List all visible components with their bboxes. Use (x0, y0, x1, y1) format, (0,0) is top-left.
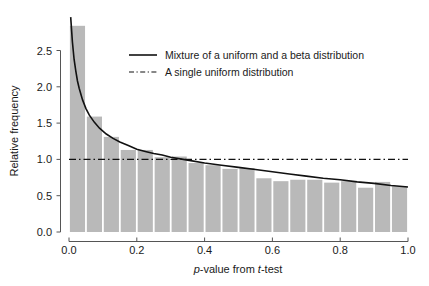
chart-svg: 0.00.51.01.52.02.5 0.00.20.40.60.81.0 Re… (0, 0, 429, 286)
histogram-bar (121, 150, 136, 232)
y-axis-tick-label: 1.0 (37, 153, 52, 165)
histogram-bar (206, 165, 221, 232)
histogram-bar (307, 180, 322, 232)
histogram-bar (273, 181, 288, 232)
histogram-bar (155, 157, 170, 232)
histogram-bar (222, 169, 237, 232)
histogram-bar (375, 182, 390, 232)
legend-label: Mixture of a uniform and a beta distribu… (165, 49, 364, 61)
histogram-bar (290, 180, 305, 232)
histogram-bar (138, 150, 153, 232)
histogram-bar (392, 186, 407, 232)
x-axis-tick-label: 0.4 (197, 244, 212, 256)
histogram-bar (104, 137, 119, 232)
x-axis-tick-label: 0.2 (129, 244, 144, 256)
y-axis-tick-label: 2.0 (37, 81, 52, 93)
y-axis-tick-label: 0.0 (37, 226, 52, 238)
histogram-bar (256, 178, 271, 232)
x-axis-tick-label: 0.0 (61, 244, 76, 256)
x-axis-tick-label: 0.6 (265, 244, 280, 256)
histogram-bar (87, 117, 102, 232)
x-axis-tick-label: 1.0 (400, 244, 415, 256)
histogram-bar (189, 163, 204, 232)
y-axis-tick-label: 0.5 (37, 190, 52, 202)
chart-figure: 0.00.51.01.52.02.5 0.00.20.40.60.81.0 Re… (0, 0, 429, 286)
y-axis-title: Relative frequency (8, 85, 20, 177)
histogram-bar (172, 157, 187, 233)
y-axis-tick-label: 1.5 (37, 117, 52, 129)
histogram-bar (341, 181, 356, 232)
histogram-bar (239, 168, 254, 232)
x-axis-title: p-value from t-test (193, 263, 283, 275)
histogram-bar (358, 188, 373, 232)
y-axis-tick-label: 2.5 (37, 45, 52, 57)
x-axis-tick-label: 0.8 (333, 244, 348, 256)
histogram-bar (324, 183, 339, 232)
histogram-bar (70, 26, 85, 232)
legend-label: A single uniform distribution (165, 66, 294, 78)
